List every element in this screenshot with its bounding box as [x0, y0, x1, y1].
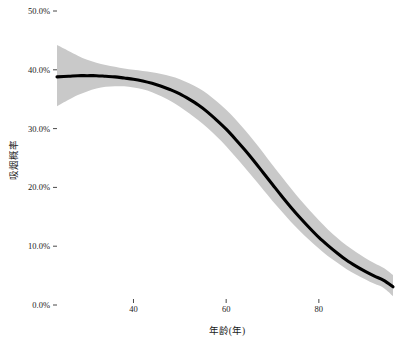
- y-axis-tick-label: 20.0%: [28, 182, 50, 192]
- smoking-probability-by-age-chart: 50.0%40.0%30.0%20.0%10.0%0.0% 406080 年龄(…: [0, 0, 405, 345]
- y-axis-tick-label: 40.0%: [28, 65, 50, 75]
- x-axis-tick-label: 40: [129, 304, 138, 314]
- y-axis-tick-label: 50.0%: [28, 6, 50, 16]
- y-axis-tick-label: 30.0%: [28, 124, 50, 134]
- x-axis-tick-label: 80: [315, 304, 324, 314]
- y-axis-tick-label: 10.0%: [28, 241, 50, 251]
- x-axis-title: 年龄(年): [209, 325, 245, 337]
- y-axis-tick-label: 0.0%: [32, 300, 50, 310]
- x-axis-tick-label: 60: [222, 304, 231, 314]
- chart-canvas: 50.0%40.0%30.0%20.0%10.0%0.0% 406080 年龄(…: [0, 0, 405, 345]
- y-axis-title: 吸烟概率: [8, 140, 19, 180]
